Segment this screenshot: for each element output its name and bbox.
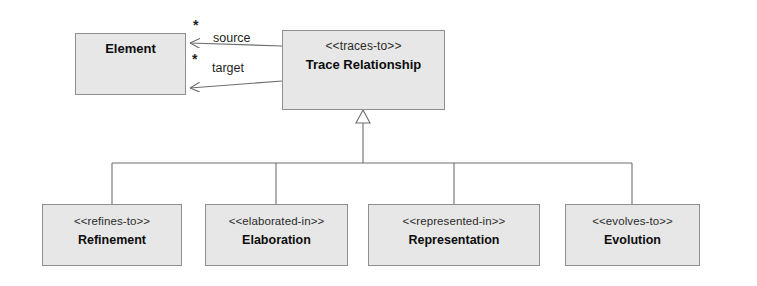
multiplicity-source: * [193,18,198,32]
class-box-evolution[interactable]: <<evolves-to>> Evolution [565,204,700,266]
class-name-representation: Representation [409,234,500,248]
class-name-refinement: Refinement [78,234,146,248]
multiplicity-target: * [192,52,197,66]
association-label-source: source [213,31,251,45]
stereotype-evolution: <<evolves-to>> [592,215,673,228]
class-box-elaboration[interactable]: <<elaborated-in>> Elaboration [205,204,348,266]
class-name-trace-relationship: Trace Relationship [306,58,422,72]
stereotype-elaboration: <<elaborated-in>> [229,215,325,228]
generalization-arrowhead [356,110,370,123]
association-target-line [190,81,282,88]
stereotype-refinement: <<refines-to>> [74,215,150,228]
stereotype-representation: <<represented-in>> [403,215,506,228]
class-box-trace-relationship[interactable]: <<traces-to>> Trace Relationship [282,30,445,110]
class-box-representation[interactable]: <<represented-in>> Representation [368,204,540,266]
uml-diagram-canvas: Element <<traces-to>> Trace Relationship… [0,0,757,286]
stereotype-trace-relationship: <<traces-to>> [325,40,401,53]
association-label-target: target [212,61,244,75]
class-name-evolution: Evolution [604,234,661,248]
class-name-elaboration: Elaboration [242,234,311,248]
class-name-element: Element [105,42,156,56]
class-box-refinement[interactable]: <<refines-to>> Refinement [42,204,182,266]
class-box-element[interactable]: Element [75,33,186,95]
